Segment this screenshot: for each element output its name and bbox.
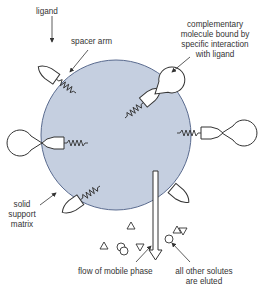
matrix-pointer (40, 193, 56, 205)
label-line: all other solutes (170, 267, 238, 277)
label-line: with ligand (176, 50, 254, 60)
label-flow: flow of mobile phase (78, 267, 153, 277)
label-complementary: complementary molecule bound by specific… (176, 20, 254, 60)
free-solutes (100, 222, 187, 255)
ligand-bottom-right (168, 183, 193, 206)
label-solid-support: solid support matrix (2, 200, 42, 230)
complementary-molecule-right (222, 120, 257, 146)
label-line: support (2, 210, 42, 220)
label-ligand: ligand (36, 7, 58, 17)
label-line: specific interaction (176, 40, 254, 50)
label-spacer-arm: spacer arm (71, 37, 112, 47)
label-eluted: all other solutes are eluted (170, 267, 238, 287)
label-line: are eluted (170, 277, 238, 287)
label-line: solid (2, 200, 42, 210)
label-line: complementary (176, 20, 254, 30)
eluted-pointer (172, 243, 190, 262)
label-line: matrix (2, 220, 42, 230)
complementary-molecule-left (7, 130, 42, 156)
label-line: molecule bound by (176, 30, 254, 40)
